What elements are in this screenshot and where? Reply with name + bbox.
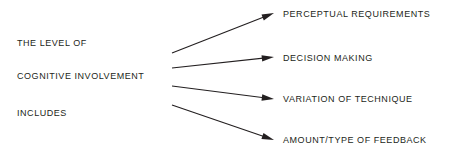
arrow-to-variation-of-technique — [172, 86, 274, 101]
arrowhead-icon-4 — [261, 133, 274, 140]
arrowhead-icon-1 — [261, 13, 274, 20]
arrow-line-1 — [172, 15, 268, 53]
source-line-2: COGNITIVE INVOLVEMENT — [17, 71, 144, 81]
source-line-1: THE LEVEL OF — [17, 38, 87, 48]
target-label-decision-making: DECISION MAKING — [283, 53, 373, 63]
arrow-line-4 — [172, 105, 268, 138]
arrowhead-icon-2 — [262, 55, 274, 61]
target-label-variation-of-technique: VARIATION OF TECHNIQUE — [283, 94, 413, 104]
arrow-line-3 — [172, 86, 268, 98]
arrow-line-2 — [172, 58, 268, 68]
source-line-3: INCLUDES — [17, 108, 67, 118]
target-label-perceptual-requirements: PERCEPTUAL REQUIREMENTS — [283, 9, 430, 19]
arrow-to-amount-type-of-feedback — [172, 105, 274, 140]
diagram-canvas: THE LEVEL OF COGNITIVE INVOLVEMENT INCLU… — [0, 0, 466, 161]
arrowhead-icon-3 — [261, 94, 274, 100]
arrow-to-decision-making — [172, 55, 274, 68]
target-label-amount-type-of-feedback: AMOUNT/TYPE OF FEEDBACK — [283, 135, 427, 145]
arrow-to-perceptual-requirements — [172, 13, 274, 53]
